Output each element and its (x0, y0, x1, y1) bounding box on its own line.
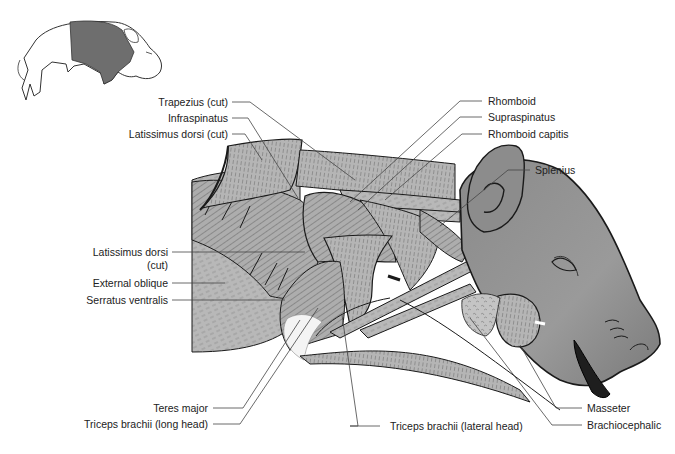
anatomy-figure: Trapezius (cut) Infraspinatus Latissimus… (0, 0, 675, 454)
label-brachiocephalic: Brachiocephalic (587, 419, 661, 431)
label-masseter: Masseter (587, 402, 630, 414)
salivary-gland (462, 294, 500, 336)
label-latissimus-dorsi-cut-top: Latissimus dorsi (cut) (129, 128, 228, 140)
label-serratus-ventralis: Serratus ventralis (86, 294, 168, 306)
label-infraspinatus: Infraspinatus (168, 112, 228, 124)
label-teres-major: Teres major (153, 402, 208, 414)
label-triceps-lateral-head: Triceps brachii (lateral head) (390, 420, 523, 432)
label-rhomboid: Rhomboid (488, 95, 536, 107)
label-external-oblique: External oblique (93, 277, 168, 289)
label-supraspinatus: Supraspinatus (488, 111, 555, 123)
label-splenius: Splenius (535, 164, 575, 176)
pig-orientation-icon (18, 21, 162, 100)
label-latissimus-dorsi-line2: (cut) (147, 259, 168, 271)
muscle-illustration (0, 0, 675, 454)
pig-head (460, 145, 660, 397)
label-triceps-long-head: Triceps brachii (long head) (84, 418, 208, 430)
label-trapezius: Trapezius (cut) (158, 96, 228, 108)
label-latissimus-dorsi-line1: Latissimus dorsi (93, 246, 168, 258)
label-rhomboid-capitis: Rhomboid capitis (488, 128, 569, 140)
